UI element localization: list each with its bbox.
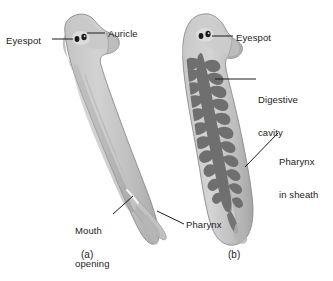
label-pharynx-a: Pharynx [186,219,222,230]
eyespot-highlight-a [84,35,86,37]
label-pharynx-in-sheath-line2: in sheath [279,189,318,200]
label-digestive-cavity-line1: Digestive [258,94,298,105]
eyespot-left-a [75,36,80,42]
label-eyespot-b: Eyespot [236,32,271,43]
label-pharynx-in-sheath-b: Pharynx in sheath [279,134,318,211]
eyespot-highlight-b [208,32,210,34]
label-auricle-a: Auricle [108,28,138,39]
eyespot-right-a [81,34,86,40]
label-mouth-opening-line1: Mouth [75,225,110,236]
caption-b: (b) [228,249,240,260]
leader-pharynx-a [157,211,184,224]
label-pharynx-in-sheath-line1: Pharynx [279,156,318,167]
label-mouth-opening-a: Mouth opening [75,203,110,280]
eyespot-halo-b [196,28,214,42]
caption-a: (a) [81,249,93,260]
label-eyespot-a: Eyespot [6,35,41,46]
planarian-a [52,14,184,244]
eyespot-right-b [205,31,210,37]
eyespot-left-b [199,33,204,39]
